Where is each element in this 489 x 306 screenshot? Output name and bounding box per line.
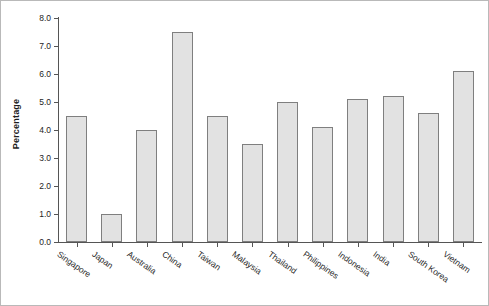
x-axis-tick-label: Singapore — [55, 249, 92, 279]
y-axis-tick-mark — [54, 74, 59, 75]
x-axis-tick-label: Taiwan — [196, 249, 223, 272]
bar-chart-figure: Percentage 0.01.02.03.04.05.06.07.08.0 S… — [0, 0, 489, 306]
x-axis-tick-label: Philippines — [301, 249, 340, 281]
x-axis-tick-label: South Korea — [407, 249, 451, 284]
x-axis-tick-mark — [358, 242, 359, 247]
x-axis-tick-mark — [428, 242, 429, 247]
x-axis-tick-label: Vietnam — [442, 249, 473, 275]
x-axis-tick-label: Malaysia — [231, 249, 264, 276]
y-axis-tick: 5.0 — [39, 97, 59, 107]
y-axis-tick: 1.0 — [39, 209, 59, 219]
y-axis-tick-mark — [54, 158, 59, 159]
y-axis-tick: 7.0 — [39, 41, 59, 51]
bar[interactable] — [172, 32, 193, 242]
y-axis-tick: 6.0 — [39, 69, 59, 79]
bar[interactable] — [383, 96, 404, 242]
x-axis-tick-mark — [463, 242, 464, 247]
bar[interactable] — [207, 116, 228, 242]
bar[interactable] — [277, 102, 298, 242]
y-axis-tick: 8.0 — [39, 13, 59, 23]
x-axis-tick-mark — [182, 242, 183, 247]
x-axis-tick-mark — [77, 242, 78, 247]
y-axis-tick-label: 5.0 — [39, 97, 51, 107]
y-axis-tick-mark — [54, 214, 59, 215]
x-axis-tick-label: Indonesia — [336, 249, 372, 278]
x-axis-tick-mark — [323, 242, 324, 247]
y-axis-tick-label: 7.0 — [39, 41, 51, 51]
x-axis-tick-mark — [252, 242, 253, 247]
x-axis-tick-label: Australia — [125, 249, 158, 276]
bar[interactable] — [242, 144, 263, 242]
y-axis-tick-mark — [54, 242, 59, 243]
x-axis-tick-mark — [288, 242, 289, 247]
y-axis-tick: 4.0 — [39, 125, 59, 135]
bar[interactable] — [347, 99, 368, 242]
x-axis-tick-label: Japan — [90, 249, 115, 270]
y-axis-tick-label: 2.0 — [39, 181, 51, 191]
y-axis-title-text: Percentage — [11, 98, 21, 149]
y-axis-tick-mark — [54, 130, 59, 131]
x-axis-line — [58, 242, 482, 243]
y-axis-tick: 2.0 — [39, 181, 59, 191]
x-axis-tick-mark — [393, 242, 394, 247]
bar[interactable] — [418, 113, 439, 242]
y-axis-tick-label: 0.0 — [39, 237, 51, 247]
x-axis-tick-label: India — [371, 249, 392, 268]
y-axis-tick-label: 1.0 — [39, 209, 51, 219]
x-axis-tick-mark — [112, 242, 113, 247]
y-axis-tick: 0.0 — [39, 237, 59, 247]
y-axis-tick-mark — [54, 102, 59, 103]
y-axis-tick-label: 8.0 — [39, 13, 51, 23]
bar[interactable] — [453, 71, 474, 242]
bar[interactable] — [312, 127, 333, 242]
x-axis-tick-mark — [147, 242, 148, 247]
y-axis-tick-mark — [54, 46, 59, 47]
x-axis-tick-label: China — [160, 249, 184, 270]
y-axis-title: Percentage — [5, 1, 27, 246]
y-axis-tick-mark — [54, 18, 59, 19]
y-axis-tick-label: 3.0 — [39, 153, 51, 163]
x-axis-tick-mark — [217, 242, 218, 247]
y-axis-tick: 3.0 — [39, 153, 59, 163]
y-axis-tick-label: 6.0 — [39, 69, 51, 79]
y-axis-tick-mark — [54, 186, 59, 187]
bar[interactable] — [101, 214, 122, 242]
plot-area: 0.01.02.03.04.05.06.07.08.0 — [59, 18, 481, 242]
bar[interactable] — [136, 130, 157, 242]
x-axis-tick-label: Thailand — [266, 249, 298, 276]
bar[interactable] — [66, 116, 87, 242]
y-axis-tick-label: 4.0 — [39, 125, 51, 135]
